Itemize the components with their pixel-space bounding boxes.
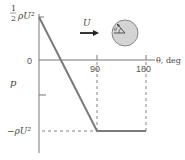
x-tick-label-90: 90 [90, 64, 100, 74]
inset-angle-label: θ [114, 26, 117, 32]
y-top-label-num: 1 [11, 4, 16, 13]
y-top-label-den: 2 [11, 14, 16, 23]
y-bottom-label: −ρU² [7, 126, 31, 136]
flow-arrow-icon [93, 30, 99, 36]
y-top-label-rest: ρU² [17, 11, 35, 21]
flow-label: U [83, 18, 91, 28]
y-axis-label: p [10, 77, 17, 88]
pressure-distribution-diagram: 1 2 ρU² 0 p −ρU² 90 180 θ, deg U θ [0, 0, 185, 160]
x-tick-label-180: 180 [136, 64, 151, 74]
y-zero-label: 0 [27, 56, 32, 66]
x-axis-label: θ, deg [156, 56, 181, 65]
